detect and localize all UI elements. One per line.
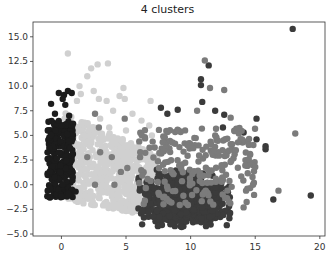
data-point — [166, 213, 172, 219]
data-point — [48, 101, 54, 107]
data-point — [124, 165, 130, 171]
data-point — [220, 124, 226, 130]
data-point — [178, 224, 184, 230]
data-point — [144, 176, 150, 182]
x-tick-label: 20 — [314, 242, 326, 252]
data-point — [162, 159, 168, 165]
data-point — [155, 190, 161, 196]
data-point — [94, 165, 100, 171]
data-point — [158, 105, 164, 111]
data-point — [139, 172, 145, 178]
data-point — [156, 127, 162, 133]
data-point — [145, 209, 151, 215]
data-point — [228, 158, 234, 164]
data-point — [199, 198, 205, 204]
y-tick-label: 15.0 — [8, 32, 28, 42]
data-point — [44, 156, 50, 162]
data-point — [240, 177, 246, 183]
data-point — [100, 189, 106, 195]
y-tick-label: −5.0 — [6, 229, 28, 239]
data-point — [235, 165, 241, 171]
data-point — [240, 204, 246, 210]
data-point — [137, 149, 143, 155]
x-tick-label: 10 — [185, 242, 197, 252]
data-point — [168, 199, 174, 205]
data-point — [172, 208, 178, 214]
data-point — [227, 114, 233, 120]
data-point — [123, 174, 129, 180]
y-tick-label: 2.5 — [14, 155, 28, 165]
data-point — [138, 117, 144, 123]
data-point — [111, 199, 117, 205]
data-point — [149, 138, 155, 144]
data-point — [262, 143, 268, 149]
data-point — [160, 194, 166, 200]
data-point — [54, 155, 60, 161]
data-point — [212, 108, 218, 114]
data-point — [155, 179, 161, 185]
data-point — [72, 188, 78, 194]
data-point — [180, 192, 186, 198]
data-point — [106, 124, 112, 130]
data-point — [96, 195, 102, 201]
data-point — [191, 135, 197, 141]
data-point — [140, 208, 146, 214]
data-point — [122, 115, 128, 121]
data-point — [253, 136, 259, 142]
data-point — [199, 147, 205, 153]
data-point — [199, 204, 205, 210]
data-point — [176, 128, 182, 134]
data-point — [65, 190, 71, 196]
data-point — [147, 98, 153, 104]
data-point — [129, 111, 135, 117]
data-point — [249, 174, 255, 180]
data-point — [122, 96, 128, 102]
data-point — [235, 139, 241, 145]
data-point — [233, 147, 239, 153]
data-point — [64, 131, 70, 137]
data-point — [205, 167, 211, 173]
data-point — [57, 138, 63, 144]
data-point — [183, 209, 189, 215]
data-point — [116, 177, 122, 183]
data-point — [52, 111, 58, 117]
data-point — [92, 111, 98, 117]
data-point — [161, 148, 167, 154]
data-point — [218, 162, 224, 168]
data-point — [114, 192, 120, 198]
data-point — [63, 158, 69, 164]
data-point — [120, 207, 126, 213]
data-point — [218, 179, 224, 185]
data-point — [111, 139, 117, 145]
data-point — [66, 112, 72, 118]
data-point — [82, 133, 88, 139]
data-point — [65, 50, 71, 56]
data-point — [123, 200, 129, 206]
data-point — [56, 118, 62, 124]
data-point — [97, 159, 103, 165]
data-point — [177, 202, 183, 208]
data-point — [198, 215, 204, 221]
data-point — [107, 171, 113, 177]
data-point — [226, 178, 232, 184]
data-point — [146, 145, 152, 151]
data-point — [184, 153, 190, 159]
data-point — [45, 119, 51, 125]
data-point — [87, 139, 93, 145]
x-tick-label: 15 — [250, 242, 261, 252]
data-point — [221, 87, 227, 93]
data-point — [78, 91, 84, 97]
data-point — [69, 177, 75, 183]
data-point — [246, 156, 252, 162]
data-point — [292, 130, 298, 136]
data-point — [120, 85, 126, 91]
x-axis: 05101520 — [59, 236, 326, 252]
data-point — [119, 138, 125, 144]
data-point — [136, 180, 142, 186]
data-point — [58, 193, 64, 199]
data-point — [149, 132, 155, 138]
data-point — [221, 112, 227, 118]
data-point — [98, 134, 104, 140]
x-tick-label: 5 — [123, 242, 129, 252]
data-point — [206, 214, 212, 220]
